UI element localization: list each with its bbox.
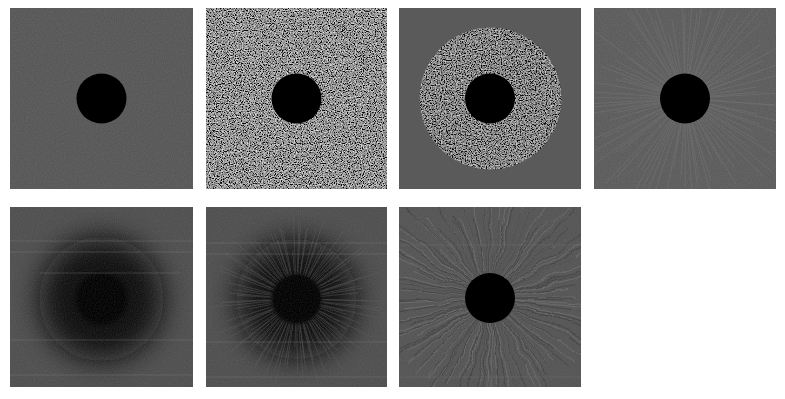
uniform-background-image — [10, 8, 193, 189]
panel-radial-filaments: wavy radial filaments around central dar… — [399, 207, 581, 387]
occluder-disk — [465, 74, 515, 124]
panel-full-noise: full-field random noise with central dar… — [206, 8, 387, 189]
occluder-disk — [465, 273, 515, 323]
panel-uniform-disk: uniform background with central dark dis… — [10, 8, 193, 189]
dark-halo-radial-image — [206, 207, 387, 387]
panel-radial-faint: faint radial streaks around central dark… — [594, 8, 776, 189]
radial-filament-image — [399, 207, 581, 387]
panel-noise-annulus: circular noise annulus around central da… — [399, 8, 581, 189]
radial-streak-image — [594, 8, 776, 189]
panel-dark-halo: blurred dark halo with horizontal line a… — [10, 207, 193, 387]
dark-halo-image — [10, 207, 193, 387]
noise-field-image — [206, 8, 387, 189]
occluder-disk — [272, 74, 322, 124]
panel-dark-halo-radial: dark halo with radial streaks and line a… — [206, 207, 387, 387]
occluder-disk — [660, 74, 710, 124]
occluder-disk — [77, 74, 127, 124]
annulus-noise-image — [399, 8, 581, 189]
